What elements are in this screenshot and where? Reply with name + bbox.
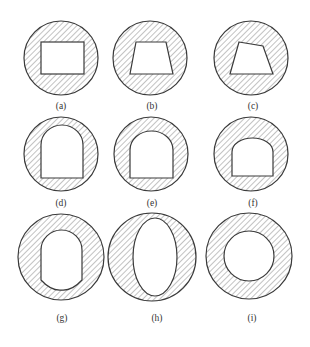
panel-label: (i) xyxy=(248,313,257,324)
panel-label: (f) xyxy=(248,198,258,209)
opening-circle xyxy=(224,231,274,281)
panel-d: (d) xyxy=(24,117,98,209)
panel-b: (b) xyxy=(113,21,187,112)
panel-h: (h) xyxy=(108,213,196,324)
panel-label: (e) xyxy=(147,198,158,209)
panel-label: (h) xyxy=(151,313,162,324)
panel-label: (g) xyxy=(56,313,67,324)
opening-vertical-ellipse xyxy=(133,218,177,296)
opening-horseshoe-rounded xyxy=(41,230,82,290)
opening-flat-arch xyxy=(232,138,273,176)
opening-rectangle xyxy=(41,42,84,74)
panel-a: (a) xyxy=(24,21,98,112)
opening-tall-arch xyxy=(41,125,83,178)
diagram-canvas: (a) (b) (c) (d) (e) (f) (g) (h) xyxy=(0,0,310,347)
panel-label: (c) xyxy=(248,101,259,112)
panel-f: (f) xyxy=(214,117,288,209)
panel-g: (g) xyxy=(18,214,104,324)
panel-i: (i) xyxy=(206,213,292,324)
panel-label: (a) xyxy=(56,101,67,112)
panel-label: (b) xyxy=(146,101,157,112)
opening-arch xyxy=(130,131,173,178)
panel-c: (c) xyxy=(214,21,288,112)
panel-e: (e) xyxy=(114,117,188,209)
opening-trapezoid xyxy=(130,42,173,74)
panel-label: (d) xyxy=(55,198,66,209)
